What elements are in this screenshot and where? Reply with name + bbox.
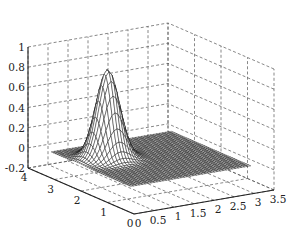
y-tick-label: 2 <box>74 194 81 206</box>
plot-canvas: 00.511.522.533.501234-0.200.20.40.60.81 <box>0 0 298 233</box>
grid-line <box>28 23 168 47</box>
z-tick-label: 0.2 <box>8 122 25 134</box>
grid-line <box>28 63 168 87</box>
x-tick-label: 3 <box>255 196 262 208</box>
x-tick-label: 3.5 <box>270 193 287 205</box>
axes <box>28 47 274 214</box>
surface-plot: 00.511.522.533.501234-0.200.20.40.60.81 <box>0 0 298 233</box>
back-grid <box>28 23 274 214</box>
y-tick-label: 1 <box>100 206 107 218</box>
y-tick-label: 0 <box>127 217 134 229</box>
x-tick-label: 1 <box>175 210 182 222</box>
z-tick-label: 0 <box>18 142 25 154</box>
tick-labels: 00.511.522.533.501234-0.200.20.40.60.81 <box>5 41 287 229</box>
x-tick-label: 0 <box>135 217 142 229</box>
x-tick-label: 1.5 <box>190 207 207 219</box>
z-tick-label: 0.6 <box>8 81 25 93</box>
z-tick-label: 1 <box>18 41 25 53</box>
x-tick-label: 2.5 <box>230 200 247 212</box>
z-tick-label: 0.8 <box>8 61 25 73</box>
x-tick-label: 2 <box>215 203 222 215</box>
y-tick-label: 3 <box>47 183 54 195</box>
grid-line <box>28 43 168 67</box>
z-tick-label: 0.4 <box>8 102 25 114</box>
x-tick-label: 0.5 <box>150 214 167 226</box>
z-tick-label: -0.2 <box>5 162 25 174</box>
